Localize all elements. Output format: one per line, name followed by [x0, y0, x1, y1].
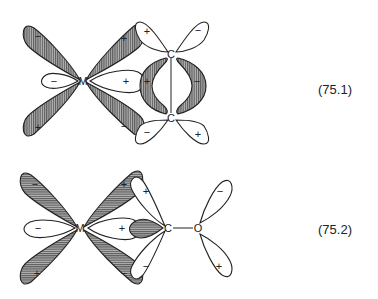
- sign: +: [121, 178, 127, 190]
- sign: −: [144, 126, 150, 138]
- sign: +: [195, 128, 201, 140]
- c1-lobe-left: [135, 22, 168, 52]
- bottom-diagram: M C O − + + − − + + − − +: [20, 171, 232, 284]
- atom-c2: C: [167, 112, 175, 124]
- sign: +: [121, 32, 127, 44]
- sign: +: [216, 260, 222, 272]
- sign: −: [121, 120, 127, 132]
- d-lobe-upper-left: [20, 173, 77, 227]
- d-lobe-upper-left: [23, 26, 80, 80]
- atom-c1: C: [167, 48, 175, 60]
- sign: +: [34, 267, 40, 279]
- d-lobe-lower-left: [20, 230, 77, 284]
- atom-c: C: [164, 222, 172, 234]
- sign: −: [32, 178, 38, 190]
- top-diagram: M C C − + + − − + + − + − − +: [23, 22, 208, 144]
- atom-o: O: [194, 222, 203, 234]
- sign: +: [123, 75, 129, 87]
- sign: +: [144, 75, 150, 87]
- c1-lobe-right: [176, 22, 209, 52]
- orbital-diagram: M C C − + + − − + + − + − − +: [0, 0, 378, 299]
- sign: −: [194, 75, 200, 87]
- sign: −: [121, 267, 127, 279]
- sign: −: [217, 185, 223, 197]
- sign: −: [35, 222, 41, 234]
- atom-m: M: [78, 75, 87, 87]
- sign: +: [119, 222, 125, 234]
- equation-label-75-1: (75.1): [318, 82, 352, 97]
- sign: +: [35, 121, 41, 133]
- sign: +: [143, 185, 149, 197]
- sign: −: [51, 75, 57, 87]
- sign: −: [195, 24, 201, 36]
- atom-m: M: [75, 222, 84, 234]
- equation-label-75-2: (75.2): [318, 222, 352, 237]
- sign: −: [35, 30, 41, 42]
- d-lobe-lower-left: [23, 82, 80, 136]
- sign: −: [143, 260, 149, 272]
- c-sigma-lobe: [130, 220, 164, 238]
- c2-lobe-right: [176, 120, 209, 144]
- pi-lobe-right: [177, 58, 206, 114]
- sign: +: [144, 25, 150, 37]
